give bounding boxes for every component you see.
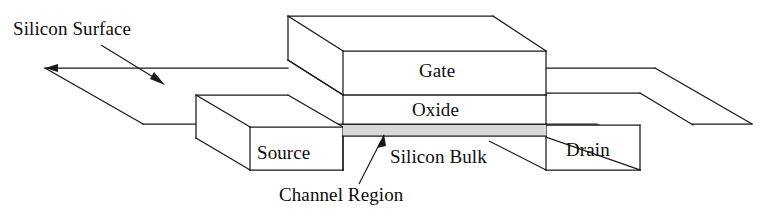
label-drain: Drain: [566, 140, 610, 159]
silicon-surface-leader-line: [101, 45, 158, 80]
silicon-bulk-leader: [489, 141, 546, 170]
silicon-surface-arrowhead: [150, 72, 165, 85]
label-gate: Gate: [419, 61, 455, 80]
surface-plane-arrowhead: [45, 64, 58, 72]
label-silicon-surface: Silicon Surface: [13, 19, 131, 38]
channel-region-fill: [343, 124, 546, 136]
drain-top-face: [546, 93, 693, 125]
label-silicon-bulk: Silicon Bulk: [390, 147, 487, 166]
surface-plane-arrow: [45, 64, 58, 72]
channel-region-band: [343, 124, 546, 136]
label-channel-region: Channel Region: [279, 185, 403, 204]
surface-plane-left-slant-edge: [45, 68, 143, 124]
gate-block: [288, 16, 546, 95]
label-oxide: Oxide: [412, 100, 459, 119]
mosfet-diagram: Silicon Surface Gate Oxide Source Silico…: [0, 0, 775, 221]
label-source: Source: [257, 143, 310, 162]
silicon-surface-callout: [101, 45, 165, 85]
channel-region-callout: [359, 134, 386, 184]
silicon-bulk-leader-line: [489, 141, 546, 170]
